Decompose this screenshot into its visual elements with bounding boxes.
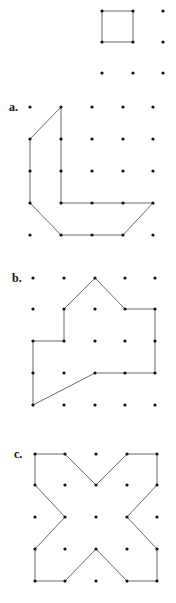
grid-dot (153, 339, 156, 342)
grid-dot (28, 201, 31, 204)
grid-dot (33, 579, 36, 582)
grid-dot (121, 137, 124, 140)
grid-dot (161, 40, 164, 43)
dot-grid-figures: a. b. c. (0, 0, 176, 603)
grid-dot (131, 71, 134, 74)
grid-dot (28, 105, 31, 108)
grid-dot (62, 307, 65, 310)
grid-dot (31, 371, 34, 374)
grid-dot (94, 547, 97, 550)
grid-dot (123, 339, 126, 342)
grid-dot (94, 515, 97, 518)
grid-dot (62, 403, 65, 406)
grid-dot (94, 579, 97, 582)
grid-dot (125, 452, 128, 455)
grid-dot (155, 515, 158, 518)
grid-dot (151, 169, 154, 172)
grid-dot (100, 71, 103, 74)
grid-dot (59, 105, 62, 108)
grid-dot (62, 371, 65, 374)
grid-dot (63, 515, 66, 518)
grid-dot (125, 515, 128, 518)
grid-dot (125, 547, 128, 550)
grid-dot (153, 371, 156, 374)
grid-dot (125, 483, 128, 486)
grid-dot (155, 483, 158, 486)
grid-dot (93, 371, 96, 374)
figure-example (100, 9, 164, 74)
grid-dot (151, 137, 154, 140)
grid-dot (28, 233, 31, 236)
grid-dot (93, 276, 96, 279)
figure-b: b. (12, 271, 157, 407)
grid-dot (90, 137, 93, 140)
grid-dot (63, 579, 66, 582)
grid-dot (59, 201, 62, 204)
grid-dot (155, 547, 158, 550)
grid-dot (63, 547, 66, 550)
grid-dot (121, 105, 124, 108)
grid-dot (161, 9, 164, 12)
grid-dot (123, 276, 126, 279)
grid-dot (33, 547, 36, 550)
grid-dot (125, 579, 128, 582)
grid-dot (93, 307, 96, 310)
grid-dot (100, 40, 103, 43)
grid-dot (93, 403, 96, 406)
figure-c: c. (14, 447, 159, 583)
grid-dot (151, 105, 154, 108)
grid-dot (121, 233, 124, 236)
figure-b-label: b. (12, 271, 22, 285)
grid-dot (31, 307, 34, 310)
grid-dot (161, 71, 164, 74)
figure-a-label: a. (9, 100, 18, 114)
grid-dot (31, 339, 34, 342)
grid-dot (33, 515, 36, 518)
grid-dot (100, 9, 103, 12)
grid-dot (90, 233, 93, 236)
grid-dot (90, 201, 93, 204)
grid-dot (131, 9, 134, 12)
grid-dot (155, 579, 158, 582)
grid-dot (33, 483, 36, 486)
grid-dot (59, 169, 62, 172)
grid-dot (90, 169, 93, 172)
grid-dot (123, 307, 126, 310)
grid-dot (153, 276, 156, 279)
polygon-example (102, 11, 133, 42)
grid-dot (28, 169, 31, 172)
grid-dot (121, 201, 124, 204)
grid-dot (155, 452, 158, 455)
grid-dot (153, 307, 156, 310)
grid-dot (151, 233, 154, 236)
grid-dot (151, 201, 154, 204)
figure-c-label: c. (14, 447, 22, 461)
grid-dot (31, 276, 34, 279)
grid-dot (62, 339, 65, 342)
grid-dot (90, 105, 93, 108)
grid-dot (153, 403, 156, 406)
grid-dot (59, 137, 62, 140)
grid-dot (62, 276, 65, 279)
grid-dot (63, 483, 66, 486)
grid-dot (94, 452, 97, 455)
grid-dot (31, 403, 34, 406)
grid-dot (28, 137, 31, 140)
grid-dot (63, 452, 66, 455)
grid-dot (33, 452, 36, 455)
figure-a: a. (9, 100, 155, 237)
grid-dot (131, 40, 134, 43)
grid-dot (94, 483, 97, 486)
grid-dot (59, 233, 62, 236)
grid-dot (123, 371, 126, 374)
grid-dot (123, 403, 126, 406)
grid-dot (93, 339, 96, 342)
grid-dot (121, 169, 124, 172)
